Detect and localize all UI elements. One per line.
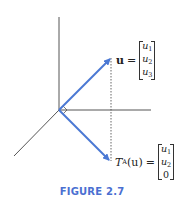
u-component-3: u3	[142, 67, 152, 80]
equals-sign: =	[127, 54, 136, 67]
u-symbol: u	[116, 54, 124, 67]
T-argument: (u)	[127, 156, 143, 169]
vector-u-arrow	[59, 59, 110, 110]
vector-TAu-label: TA(u) = u1 u2 0	[115, 144, 174, 180]
TAu-component-3: 0	[163, 170, 169, 180]
figure-2-7: u = u1 u2 u3 TA(u) = u1 u2 0 FIGURE 2.7	[0, 0, 184, 203]
vector-TAu-arrow	[59, 110, 109, 160]
vector-u-label: u = u1 u2 u3	[116, 41, 155, 80]
figure-caption: FIGURE 2.7	[0, 186, 184, 197]
equals-sign: =	[146, 156, 155, 169]
u-component-vector: u1 u2 u3	[139, 41, 155, 80]
TAu-component-vector: u1 u2 0	[158, 144, 174, 180]
x-axis	[14, 110, 59, 156]
